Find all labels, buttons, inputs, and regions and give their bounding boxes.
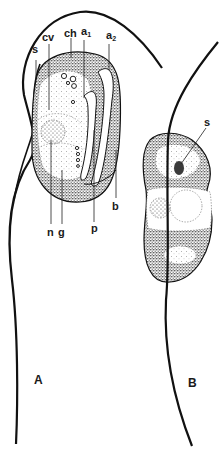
stigma-b — [174, 161, 184, 175]
symbiont-cell-b — [143, 133, 212, 282]
label-s-a: s — [32, 43, 38, 55]
label-p: p — [91, 222, 98, 234]
label-g: g — [58, 226, 65, 238]
panel-b: s B — [143, 42, 218, 446]
diagram-canvas: s cv ch a1 a2 b p n g A — [0, 0, 223, 450]
label-n: n — [47, 226, 54, 238]
panel-label-b: B — [188, 376, 197, 390]
label-cv: cv — [42, 31, 55, 43]
panel-a: s cv ch a1 a2 b p n g A — [9, 12, 162, 444]
symbiont-cell-a — [32, 52, 121, 202]
label-b: b — [112, 200, 119, 212]
label-s-b: s — [204, 116, 210, 128]
label-ch: ch — [64, 27, 77, 39]
nucleus-a — [41, 120, 65, 144]
panel-label-a: A — [34, 373, 43, 387]
label-a2: a2 — [106, 29, 116, 42]
vacuole-b — [170, 190, 202, 222]
label-a1: a1 — [81, 25, 91, 38]
